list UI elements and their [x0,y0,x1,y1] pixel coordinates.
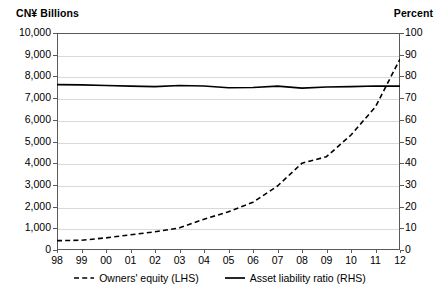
left-axis-unit-label: CN¥ Billions [16,7,79,19]
x-axis-tick-label: 98 [45,254,69,266]
x-axis-tick-label: 11 [364,254,388,266]
left-axis-tick-label: 7,000 [5,91,51,103]
left-axis-tick-label: 6,000 [5,113,51,125]
right-axis-tick-mark [400,207,404,208]
x-axis-tick-label: 00 [94,254,118,266]
right-axis-tick-mark [400,120,404,121]
left-axis-tick-label: 8,000 [5,69,51,81]
right-axis-tick-label: 40 [405,156,439,168]
left-axis-tick-label: 10,000 [5,26,51,38]
left-axis-tick-label: 1,000 [5,221,51,233]
x-axis-tick-label: 03 [168,254,192,266]
right-axis-tick-mark [400,98,404,99]
x-axis-tick-label: 01 [119,254,143,266]
x-axis-tick-mark [278,250,279,253]
x-axis-tick-mark [400,250,401,253]
x-axis-tick-label: 12 [388,254,412,266]
right-axis-tick-label: 30 [405,178,439,190]
right-axis-unit-label: Percent [394,7,433,19]
right-axis-tick-mark [400,163,404,164]
x-axis-tick-label: 05 [217,254,241,266]
x-axis-tick-label: 04 [192,254,216,266]
x-axis-tick-label: 07 [266,254,290,266]
right-axis-tick-mark [400,142,404,143]
x-axis-tick-mark [82,250,83,253]
x-axis-tick-mark [57,250,58,253]
x-axis-tick-label: 08 [290,254,314,266]
right-axis-tick-label: 50 [405,135,439,147]
legend-item: Owners' equity (LHS) [74,272,198,284]
right-axis-tick-mark [400,228,404,229]
x-axis-tick-mark [106,250,107,253]
x-axis-tick-label: 99 [70,254,94,266]
x-axis-tick-mark [253,250,254,253]
x-axis-tick-mark [155,250,156,253]
right-axis-tick-mark [400,55,404,56]
legend-label: Owners' equity (LHS) [99,272,198,284]
right-axis-tick-mark [400,76,404,77]
solid-line-icon [225,274,245,282]
x-axis-tick-label: 06 [241,254,265,266]
x-axis-tick-label: 02 [143,254,167,266]
left-axis-tick-label: 4,000 [5,156,51,168]
x-axis-tick-label: 10 [339,254,363,266]
right-axis-tick-mark [400,185,404,186]
chart-figure: CN¥ Billions Percent 01,0002,0003,0004,0… [0,0,440,301]
x-axis-tick-label: 09 [315,254,339,266]
right-axis-tick-label: 90 [405,48,439,60]
x-axis-tick-mark [327,250,328,253]
right-axis-tick-label: 60 [405,113,439,125]
right-axis-tick-label: 10 [405,221,439,233]
left-axis-tick-label: 5,000 [5,135,51,147]
right-axis-tick-mark [400,33,404,34]
x-axis-tick-mark [180,250,181,253]
left-axis-tick-label: 2,000 [5,200,51,212]
series-canvas [57,33,400,250]
x-axis-tick-mark [229,250,230,253]
right-axis-tick-label: 80 [405,69,439,81]
x-axis-tick-mark [302,250,303,253]
x-axis-tick-mark [131,250,132,253]
x-axis-tick-mark [351,250,352,253]
left-axis-tick-label: 9,000 [5,48,51,60]
chart-legend: Owners' equity (LHS)Asset liability rati… [0,272,440,284]
legend-label: Asset liability ratio (RHS) [250,272,366,284]
legend-item: Asset liability ratio (RHS) [225,272,366,284]
dashed-line-icon [74,274,94,282]
x-axis-tick-mark [376,250,377,253]
series-asset-liability-ratio [57,85,400,88]
right-axis-tick-label: 20 [405,200,439,212]
x-axis-tick-mark [204,250,205,253]
right-axis-tick-label: 100 [405,26,439,38]
left-axis-tick-label: 3,000 [5,178,51,190]
right-axis-tick-label: 70 [405,91,439,103]
